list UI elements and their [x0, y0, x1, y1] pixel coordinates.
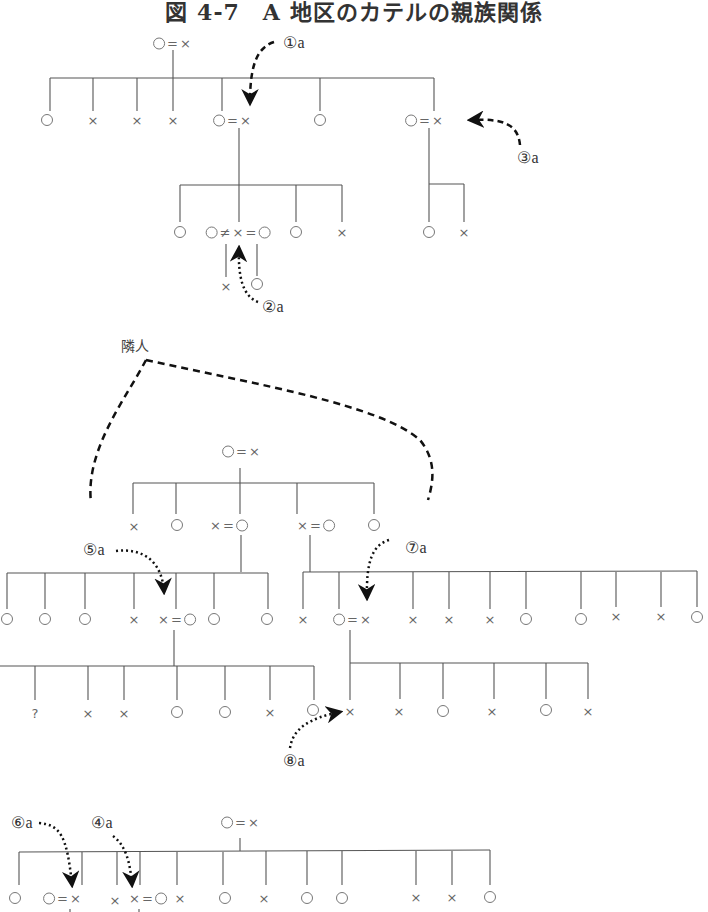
- male-symbol-icon: ×: [345, 705, 356, 718]
- female-symbol-icon: [333, 613, 345, 625]
- kin-node-t3-c4: ×=: [129, 892, 167, 905]
- female-symbol-icon: [174, 226, 186, 238]
- label-8a: ⑧a: [283, 753, 304, 769]
- kin-node-t2-r9: ×: [656, 610, 667, 623]
- female-symbol-icon: [1, 613, 13, 625]
- female-symbol-icon: [208, 613, 220, 625]
- unknown-symbol: ?: [32, 707, 39, 720]
- female-symbol-icon: [39, 613, 51, 625]
- kin-node-t3-c9: [336, 892, 348, 904]
- kin-node-t1-c3: ×: [132, 114, 143, 127]
- male-symbol-icon: ×: [70, 892, 81, 905]
- kin-node-t1-g1: [174, 226, 186, 238]
- female-symbol-icon: [484, 891, 496, 903]
- female-symbol-icon: [258, 226, 270, 238]
- male-symbol-icon: ×: [129, 520, 140, 533]
- marriage-symbol: =: [419, 114, 430, 127]
- label-4a: ④a: [91, 815, 112, 831]
- male-symbol-icon: ×: [394, 705, 405, 718]
- kin-node-t1-g2: ≠×=: [206, 226, 271, 239]
- kin-node-t3-c1: [9, 892, 21, 904]
- tree-lines: [0, 50, 697, 912]
- kin-node-t2-c4: ×=: [297, 519, 335, 532]
- male-symbol-icon: ×: [611, 610, 622, 623]
- label-3a: ③a: [517, 150, 538, 166]
- kin-node-t2-r1: ×: [298, 613, 309, 626]
- kin-node-t2-l1: [1, 613, 13, 625]
- female-symbol-icon: [307, 704, 319, 716]
- female-symbol-icon: [155, 892, 167, 904]
- kin-node-t2-l4: ×: [129, 613, 140, 626]
- kin-node-t2-r3: ×: [408, 613, 419, 626]
- female-symbol-icon: [368, 519, 380, 531]
- kin-node-t2-c2: [171, 519, 183, 531]
- kin-node-t3-c11: ×: [447, 891, 458, 904]
- kin-node-t2-rr4: ×: [487, 705, 498, 718]
- kin-node-t3-root: =×: [221, 816, 259, 829]
- marriage-symbol: =: [142, 892, 153, 905]
- female-symbol-icon: [41, 114, 53, 126]
- female-symbol-icon: [290, 226, 302, 238]
- female-symbol-icon: [206, 226, 218, 238]
- male-symbol-icon: ×: [265, 706, 276, 719]
- kin-node-t1-c1: [41, 114, 53, 126]
- kin-node-t2-rr3: [437, 705, 449, 717]
- kin-node-t3-c8: [301, 892, 313, 904]
- marriage-symbol: =: [57, 892, 68, 905]
- male-symbol-icon: ×: [180, 37, 191, 50]
- female-symbol-icon: [314, 114, 326, 126]
- kin-node-t1-gg2: [251, 278, 263, 290]
- female-symbol-icon: [221, 816, 233, 828]
- divorce-symbol: ≠: [220, 226, 231, 239]
- kin-node-t1-c2: ×: [88, 114, 99, 127]
- marriage-symbol: =: [236, 445, 247, 458]
- kin-node-t2-rr6: ×: [583, 705, 594, 718]
- female-symbol-icon: [219, 706, 231, 718]
- female-symbol-icon: [171, 519, 183, 531]
- female-symbol-icon: [261, 613, 273, 625]
- female-symbol-icon: [79, 613, 91, 625]
- kin-node-t2-rr5: [540, 704, 552, 716]
- female-symbol-icon: [520, 613, 532, 625]
- kin-node-t1-g4: ×: [337, 226, 348, 239]
- kin-node-t2-c1: ×: [129, 520, 140, 533]
- marriage-symbol: =: [245, 226, 256, 239]
- kin-node-t2-r6: [520, 613, 532, 625]
- male-symbol-icon: ×: [249, 445, 260, 458]
- kin-node-t2-rr1: ×: [345, 705, 356, 718]
- male-symbol-icon: ×: [485, 613, 496, 626]
- male-symbol-icon: ×: [158, 613, 169, 626]
- kin-node-t1-c6: [314, 114, 326, 126]
- kin-node-t1-g3: [290, 226, 302, 238]
- kin-node-t1-g5: [423, 226, 435, 238]
- male-symbol-icon: ×: [168, 114, 179, 127]
- female-symbol-icon: [213, 114, 225, 126]
- male-symbol-icon: ×: [259, 892, 270, 905]
- female-symbol-icon: [301, 892, 313, 904]
- label-6a: ⑥a: [11, 815, 32, 831]
- female-symbol-icon: [336, 892, 348, 904]
- female-symbol-icon: [171, 706, 183, 718]
- male-symbol-icon: ×: [110, 894, 121, 907]
- kin-node-t2-root: =×: [222, 445, 260, 458]
- male-symbol-icon: ×: [432, 114, 443, 127]
- female-symbol-icon: [219, 892, 231, 904]
- male-symbol-icon: ×: [583, 705, 594, 718]
- male-symbol-icon: ×: [298, 613, 309, 626]
- kinship-diagram: [0, 0, 708, 912]
- marriage-symbol: =: [235, 816, 246, 829]
- marriage-symbol: =: [167, 37, 178, 50]
- male-symbol-icon: ×: [411, 891, 422, 904]
- kin-node-t3-c12: [484, 891, 496, 903]
- male-symbol-icon: ×: [88, 114, 99, 127]
- male-symbol-icon: ×: [119, 707, 130, 720]
- kin-node-t2-c5: [368, 519, 380, 531]
- annotation-arrows: [39, 42, 520, 885]
- female-symbol-icon: [575, 613, 587, 625]
- kin-node-t2-r7: [575, 613, 587, 625]
- marriage-symbol: =: [171, 613, 182, 626]
- male-symbol-icon: ×: [175, 892, 186, 905]
- label-7a: ⑦a: [405, 540, 426, 556]
- male-symbol-icon: ×: [337, 226, 348, 239]
- female-symbol-icon: [184, 613, 196, 625]
